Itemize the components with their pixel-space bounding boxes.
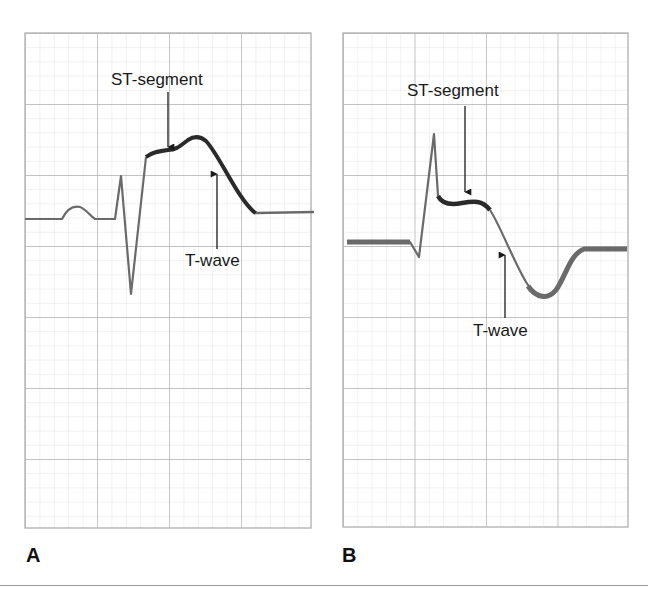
panel-b-t-wave-label: T-wave bbox=[473, 321, 528, 341]
panel-b-st-segment-label: ST-segment bbox=[407, 81, 499, 101]
panel-b-grid bbox=[343, 33, 628, 527]
panel-a-t-wave-label: T-wave bbox=[185, 251, 240, 271]
panel-b-label: B bbox=[342, 544, 356, 567]
ecg-figure: ST-segment T-wave A ST-segment T-wave B bbox=[0, 0, 648, 594]
panel-a-label: A bbox=[26, 544, 40, 567]
panel-a-st-segment-label: ST-segment bbox=[111, 70, 203, 90]
ecg-graphics bbox=[0, 0, 648, 594]
bottom-divider bbox=[0, 585, 648, 586]
